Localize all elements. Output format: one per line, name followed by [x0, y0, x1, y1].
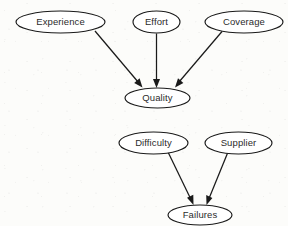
- edge-experience-to-quality: [95, 31, 143, 88]
- edge-coverage-to-quality: [175, 32, 222, 88]
- node-label-difficulty: Difficulty: [135, 137, 172, 148]
- edge-effort-to-quality: [153, 34, 160, 89]
- causal-diagram: Experience Effort Coverage Quality: [0, 0, 288, 226]
- node-coverage[interactable]: Coverage: [205, 11, 283, 33]
- node-label-effort: Effort: [145, 16, 168, 27]
- node-label-coverage: Coverage: [223, 16, 265, 27]
- node-failures[interactable]: Failures: [168, 205, 232, 225]
- node-experience[interactable]: Experience: [16, 11, 105, 33]
- node-label-quality: Quality: [142, 92, 172, 103]
- node-supplier[interactable]: Supplier: [205, 132, 272, 154]
- node-label-experience: Experience: [36, 16, 85, 27]
- node-quality[interactable]: Quality: [125, 88, 190, 108]
- edge-supplier-to-failures: [206, 152, 228, 205]
- graph-canvas: Experience Effort Coverage Quality: [0, 0, 288, 226]
- node-effort[interactable]: Effort: [133, 11, 180, 33]
- node-label-supplier: Supplier: [221, 137, 257, 148]
- edge-difficulty-to-failures: [168, 152, 194, 205]
- node-label-failures: Failures: [183, 209, 218, 220]
- node-difficulty[interactable]: Difficulty: [119, 132, 188, 154]
